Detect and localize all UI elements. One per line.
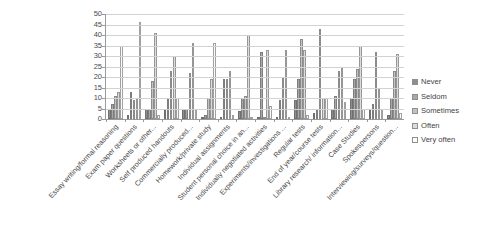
legend-swatch-icon [412, 79, 418, 85]
y-axis-tick-mark [102, 25, 105, 26]
legend-item-very-often[interactable]: Very often [412, 136, 459, 144]
legend-label: Very often [421, 136, 455, 144]
y-axis-tick-mark [102, 88, 105, 89]
legend-swatch-icon [412, 137, 418, 143]
y-axis-tick-mark [102, 35, 105, 36]
y-axis-tick-mark [102, 119, 105, 120]
y-axis-tick-mark [102, 14, 105, 15]
legend-label: Often [421, 122, 440, 130]
y-axis-tick-mark [102, 77, 105, 78]
y-axis-tick-mark [102, 67, 105, 68]
legend-swatch-icon [412, 108, 418, 114]
legend-label: Never [421, 78, 441, 86]
y-axis-tick-mark [102, 98, 105, 99]
legend-item-never[interactable]: Never [412, 78, 459, 86]
y-axis-tick-mark [102, 56, 105, 57]
y-axis-tick-mark [102, 109, 105, 110]
bar-chart: 05101520253035404550 Essay writing/forma… [0, 0, 491, 249]
legend-swatch-icon [412, 123, 418, 129]
y-axis-tick-mark [102, 46, 105, 47]
chart-screenshot: 05101520253035404550 Essay writing/forma… [0, 0, 491, 249]
legend-swatch-icon [412, 94, 418, 100]
legend-item-often[interactable]: Often [412, 122, 459, 130]
legend-label: Seldom [421, 93, 447, 101]
legend-item-sometimes[interactable]: Sometimes [412, 107, 459, 115]
legend-item-seldom[interactable]: Seldom [412, 93, 459, 101]
chart-legend: NeverSeldomSometimesOftenVery often [412, 78, 459, 144]
legend-label: Sometimes [421, 107, 459, 115]
